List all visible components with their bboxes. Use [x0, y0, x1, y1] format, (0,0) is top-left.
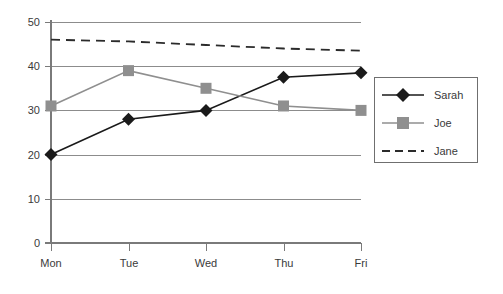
data-point-square — [278, 100, 289, 111]
y-tick-label-20: 20 — [28, 149, 40, 161]
x-tick-label-wed: Wed — [195, 257, 217, 269]
data-series-layer — [45, 40, 368, 161]
y-tick-label-10: 10 — [28, 193, 40, 205]
data-point-square — [356, 105, 367, 116]
line-chart: 50 40 30 20 10 0 Mon Tue Wed Thu Fri Sar… — [0, 0, 503, 294]
legend-label-joe: Joe — [434, 117, 452, 129]
legend-entry-jane[interactable]: Jane — [382, 145, 458, 157]
legend-marker-square-icon — [397, 117, 409, 129]
data-point-diamond — [355, 66, 368, 79]
x-tick-marks — [51, 243, 361, 251]
y-tick-label-0: 0 — [34, 237, 40, 249]
series-jane — [51, 40, 361, 51]
x-tick-labels: Mon Tue Wed Thu Fri — [40, 257, 367, 269]
legend-marker-diamond-icon — [396, 88, 410, 102]
legend-label-sarah: Sarah — [434, 89, 463, 101]
y-tick-label-40: 40 — [28, 60, 40, 72]
x-tick-label-thu: Thu — [275, 257, 294, 269]
series-line-jane — [51, 40, 361, 51]
x-tick-label-fri: Fri — [355, 257, 368, 269]
y-tick-marks — [45, 22, 51, 243]
chart-canvas: 50 40 30 20 10 0 Mon Tue Wed Thu Fri Sar… — [0, 0, 503, 294]
data-point-square — [123, 65, 134, 76]
y-tick-label-50: 50 — [28, 16, 40, 28]
x-tick-label-tue: Tue — [120, 257, 139, 269]
data-point-diamond — [200, 104, 213, 117]
x-tick-label-mon: Mon — [40, 257, 61, 269]
data-point-diamond — [277, 71, 290, 84]
chart-legend: Sarah Joe Jane — [374, 77, 477, 162]
data-point-square — [201, 83, 212, 94]
series-sarah — [45, 66, 368, 161]
data-point-diamond — [45, 148, 58, 161]
legend-label-jane: Jane — [434, 145, 458, 157]
data-point-diamond — [122, 113, 135, 126]
legend-entry-sarah[interactable]: Sarah — [382, 88, 463, 102]
y-tick-label-30: 30 — [28, 104, 40, 116]
data-point-square — [46, 100, 57, 111]
legend-entry-joe[interactable]: Joe — [382, 117, 452, 129]
y-tick-labels: 50 40 30 20 10 0 — [28, 16, 40, 249]
